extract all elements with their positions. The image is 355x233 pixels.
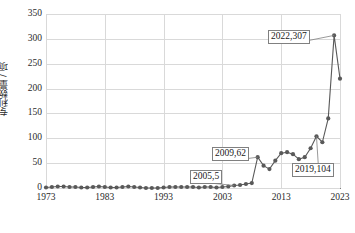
data-point-marker xyxy=(338,77,342,81)
data-point-marker xyxy=(250,181,254,185)
data-point-marker xyxy=(291,152,295,156)
data-point-marker xyxy=(179,185,183,189)
data-point-marker xyxy=(220,185,224,189)
patent-count-line-chart: 专利数量 / 项 050100150200250300350 197319831… xyxy=(0,0,355,233)
annotation-callout: 2019,104 xyxy=(292,163,334,177)
data-point-marker xyxy=(97,184,101,188)
data-point-marker xyxy=(67,185,71,189)
data-point-marker xyxy=(73,185,77,189)
data-point-marker xyxy=(320,140,324,144)
data-point-marker xyxy=(209,185,213,189)
data-point-marker xyxy=(273,159,277,163)
data-point-marker xyxy=(91,185,95,189)
annotation-callout: 2009,62 xyxy=(212,147,249,161)
annotation-callout: 2005,5 xyxy=(190,170,222,184)
data-point-marker xyxy=(285,150,289,154)
data-point-marker xyxy=(326,116,330,120)
data-point-marker xyxy=(185,185,189,189)
data-point-marker xyxy=(50,185,54,189)
data-point-marker xyxy=(103,185,107,189)
annotation-callout: 2022,307 xyxy=(268,30,310,44)
data-point-marker xyxy=(244,182,248,186)
data-point-marker xyxy=(109,185,113,189)
data-point-marker xyxy=(156,186,160,190)
data-point-marker xyxy=(150,186,154,190)
data-point-marker xyxy=(162,185,166,189)
data-point-marker xyxy=(56,184,60,188)
data-point-marker xyxy=(44,185,48,189)
data-point-marker xyxy=(126,184,130,188)
data-point-marker xyxy=(214,185,218,189)
data-point-marker xyxy=(261,164,265,168)
data-point-marker xyxy=(132,185,136,189)
data-point-marker xyxy=(279,151,283,155)
data-point-marker xyxy=(62,184,66,188)
data-point-marker xyxy=(85,185,89,189)
data-point-marker xyxy=(238,183,242,187)
data-point-marker xyxy=(144,186,148,190)
data-point-marker xyxy=(79,185,83,189)
data-point-marker xyxy=(120,185,124,189)
data-point-marker xyxy=(114,185,118,189)
data-point-marker xyxy=(297,157,301,161)
data-point-marker xyxy=(138,185,142,189)
data-point-marker xyxy=(167,185,171,189)
data-point-marker xyxy=(173,185,177,189)
data-point-marker xyxy=(191,185,195,189)
data-point-marker xyxy=(203,185,207,189)
data-point-marker xyxy=(309,146,313,150)
data-point-marker xyxy=(267,167,271,171)
data-point-marker xyxy=(303,155,307,159)
data-point-marker xyxy=(197,185,201,189)
